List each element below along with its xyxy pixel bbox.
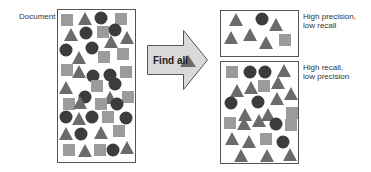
precision-label-line1: High precision,	[303, 12, 356, 21]
circle-shape	[60, 44, 73, 57]
square-shape	[102, 111, 114, 123]
precision-label: High precision, low recall	[303, 12, 356, 30]
recall-label-line2: low precision	[303, 72, 349, 81]
precision-label-line2: low recall	[303, 21, 356, 30]
circle-shape	[252, 96, 265, 109]
square-shape	[115, 13, 127, 25]
recall-label-line1: High recall,	[303, 63, 349, 72]
square-shape	[91, 80, 103, 92]
circle-shape	[86, 42, 99, 55]
square-shape	[95, 98, 107, 110]
square-shape	[258, 80, 270, 92]
square-shape	[113, 125, 125, 137]
square-shape	[120, 66, 132, 78]
square-shape	[224, 117, 236, 129]
square-shape	[97, 26, 109, 38]
square-shape	[63, 98, 75, 110]
circle-shape	[109, 78, 122, 91]
square-shape	[279, 34, 291, 46]
square-shape	[98, 51, 110, 63]
circle-shape	[107, 144, 120, 157]
square-shape	[260, 133, 272, 145]
circle-shape	[111, 98, 124, 111]
circle-shape	[120, 112, 133, 125]
circle-shape	[225, 97, 238, 110]
circle-shape	[270, 118, 283, 131]
circle-shape	[95, 12, 108, 25]
square-shape	[61, 64, 73, 76]
recall-label: High recall, low precision	[303, 63, 349, 81]
square-shape	[94, 144, 106, 156]
circle-shape	[75, 128, 88, 141]
square-shape	[226, 66, 238, 78]
find-all-label: Find all	[153, 56, 188, 65]
square-shape	[285, 119, 297, 131]
square-shape	[286, 107, 298, 119]
square-shape	[117, 48, 129, 60]
square-shape	[61, 14, 73, 26]
circle-shape	[80, 27, 93, 40]
document-label: Document	[19, 12, 55, 21]
square-shape	[63, 144, 75, 156]
circle-shape	[256, 13, 269, 26]
circle-shape	[86, 111, 99, 124]
square-shape	[122, 91, 134, 103]
circle-shape	[244, 66, 257, 79]
circle-shape	[277, 136, 290, 149]
circle-shape	[109, 24, 122, 37]
circle-shape	[259, 66, 272, 79]
circle-shape	[60, 111, 73, 124]
